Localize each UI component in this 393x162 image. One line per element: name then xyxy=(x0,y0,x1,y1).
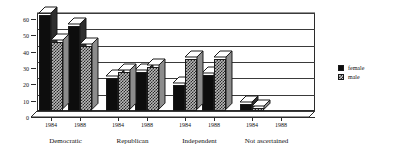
legend-swatch-icon-female xyxy=(338,65,344,71)
y-tick-label-30: 30 xyxy=(23,66,29,72)
y-tick-label-40: 40 xyxy=(23,50,29,56)
x-group-label-independent: Independent xyxy=(182,137,217,145)
x-year-label-3: 1988 xyxy=(141,122,153,129)
bar-front-face xyxy=(185,59,197,111)
chart-container: 6050403020100 19841988198419881984198819… xyxy=(0,0,393,162)
y-tick-label-10: 10 xyxy=(23,99,29,105)
bar-front-face xyxy=(147,67,159,111)
x-year-label-5: 1988 xyxy=(208,122,220,129)
x-year-label-7: 1988 xyxy=(275,122,287,129)
bar-male-independent-1984 xyxy=(185,59,197,111)
bar-front-face xyxy=(173,85,185,111)
bar-front-face xyxy=(51,42,63,111)
y-tick-30: 30 xyxy=(31,68,36,69)
bar-male-not-ascertained-1984 xyxy=(252,108,264,111)
x-year-label-4: 1984 xyxy=(179,122,191,129)
legend-label-male: male xyxy=(348,73,360,81)
bar-front-face xyxy=(214,59,226,111)
legend-label-female: female xyxy=(348,64,364,72)
bar-male-independent-1988 xyxy=(214,59,226,111)
chart-legend: femalemale xyxy=(338,63,364,81)
x-tick-2 xyxy=(118,117,119,121)
y-tick-40: 40 xyxy=(31,52,36,53)
x-tick-4 xyxy=(185,117,186,121)
y-tick-10: 10 xyxy=(31,101,36,102)
bar-male-republican-1988 xyxy=(147,67,159,111)
bar-male-democratic-1984 xyxy=(51,42,63,111)
plot-area: 6050403020100 xyxy=(31,13,315,117)
y-tick-label-60: 60 xyxy=(23,17,29,23)
x-tick-6 xyxy=(252,117,253,121)
x-year-label-6: 1984 xyxy=(246,122,258,129)
x-year-label-0: 1984 xyxy=(45,122,57,129)
legend-swatch-icon-male xyxy=(338,74,344,80)
x-group-label-republican: Republican xyxy=(117,137,149,145)
x-group-label-democratic: Democratic xyxy=(49,137,82,145)
y-tick-label-0: 0 xyxy=(26,115,29,121)
y-tick-label-50: 50 xyxy=(23,33,29,39)
x-axis-line xyxy=(31,117,315,118)
y-axis: 6050403020100 xyxy=(31,13,38,117)
legend-item-female: female xyxy=(338,63,364,72)
bar-male-democratic-1988 xyxy=(80,46,92,111)
bar-female-republican-1984 xyxy=(106,78,118,111)
x-year-label-2: 1984 xyxy=(112,122,124,129)
x-year-label-1: 1988 xyxy=(74,122,86,129)
x-tick-3 xyxy=(147,117,148,121)
bar-front-face xyxy=(240,104,252,111)
bar-female-democratic-1984 xyxy=(39,15,51,111)
bar-front-face xyxy=(118,72,130,111)
y-tick-50: 50 xyxy=(31,35,36,36)
x-tick-5 xyxy=(214,117,215,121)
x-tick-1 xyxy=(80,117,81,121)
bar-front-face xyxy=(252,108,264,111)
bar-female-independent-1984 xyxy=(173,85,185,111)
x-tick-0 xyxy=(51,117,52,121)
x-tick-7 xyxy=(281,117,282,121)
x-group-label-not-ascertained: Not ascertained xyxy=(245,137,289,145)
y-tick-60: 60 xyxy=(31,19,36,20)
bar-front-face xyxy=(39,15,51,111)
bar-front-face xyxy=(106,78,118,111)
bar-female-not-ascertained-1984 xyxy=(240,104,252,111)
y-tick-label-20: 20 xyxy=(23,82,29,88)
legend-item-male: male xyxy=(338,72,364,81)
bar-front-face xyxy=(80,46,92,111)
bar-male-republican-1984 xyxy=(118,72,130,111)
y-tick-20: 20 xyxy=(31,84,36,85)
bars-layer xyxy=(31,13,315,117)
